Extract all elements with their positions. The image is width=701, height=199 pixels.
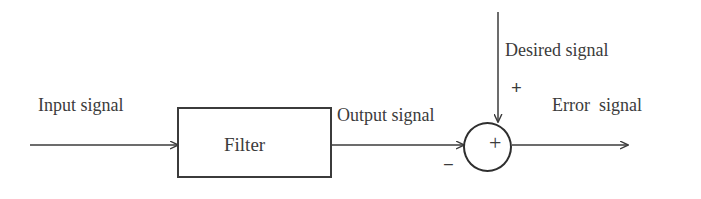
error-signal-label: Error signal [552, 96, 642, 114]
summing-junction [463, 122, 512, 172]
input-signal-label: Input signal [38, 96, 124, 114]
minus-sign-output-input: − [443, 155, 454, 174]
block-diagram-canvas: Input signal Filter Output signal Desire… [0, 0, 701, 199]
filter-block-label: Filter [224, 135, 265, 154]
summing-junction-plus-symbol: + [489, 132, 501, 154]
plus-sign-desired-input: + [511, 78, 522, 97]
output-signal-label: Output signal [337, 106, 435, 124]
desired-signal-label: Desired signal [505, 41, 608, 59]
